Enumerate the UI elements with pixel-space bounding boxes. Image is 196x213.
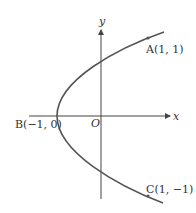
point-a-label: A(1, 1)	[145, 43, 184, 56]
parabola-curve	[57, 32, 164, 203]
x-axis-label: x	[173, 110, 180, 123]
diagram-canvas: y x O A(1, 1) B(−1, 0) C(1, −1)	[0, 0, 196, 213]
point-c-label: C(1, −1)	[146, 183, 193, 196]
point-b-label: B(−1, 0)	[15, 118, 62, 131]
origin-label: O	[91, 117, 100, 130]
y-axis-label: y	[98, 15, 106, 28]
point-a-marker	[146, 36, 149, 39]
